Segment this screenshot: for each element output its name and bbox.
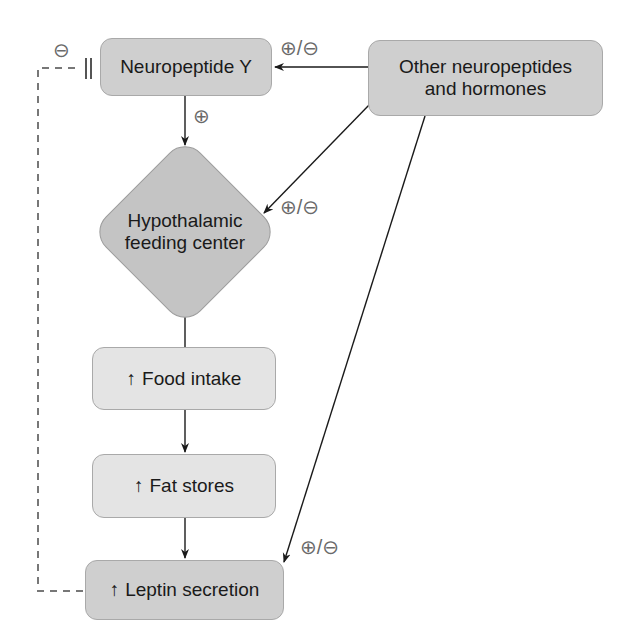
sign-leptin-inhibits-npy: ⊖ [53,38,70,62]
sign-other-to-npy: ⊕/⊖ [280,36,319,60]
node-label-line1: Hypothalamic [95,210,275,232]
up-arrow-icon: ↑ [127,368,137,390]
node-label: Neuropeptide Y [120,56,252,78]
node-label: Fat stores [150,475,234,497]
edge-leptin-inhibits-npy [38,68,83,591]
node-label: Food intake [142,368,241,390]
node-label: Leptin secretion [125,579,259,601]
edge-other-to-leptin [284,116,425,562]
node-label-line2: and hormones [425,78,546,100]
node-label-line1: Other neuropeptides [399,56,572,78]
up-arrow-icon: ↑ [134,475,144,497]
sign-other-to-hypothalamus: ⊕/⊖ [280,195,319,219]
node-hypothalamus-label: Hypothalamic feeding center [95,210,275,254]
up-arrow-icon: ↑ [110,579,120,601]
node-food-intake: ↑ Food intake [92,347,276,410]
node-other-neuropeptides: Other neuropeptides and hormones [368,40,603,116]
sign-npy-to-hypothalamus: ⊕ [193,104,210,128]
node-label-line2: feeding center [95,232,275,254]
node-leptin-secretion: ↑ Leptin secretion [85,560,284,620]
node-fat-stores: ↑ Fat stores [92,454,276,518]
node-neuropeptide-y: Neuropeptide Y [100,38,272,96]
sign-other-to-leptin: ⊕/⊖ [300,535,339,559]
